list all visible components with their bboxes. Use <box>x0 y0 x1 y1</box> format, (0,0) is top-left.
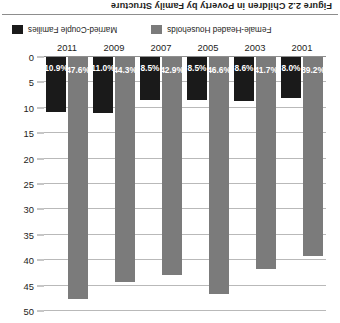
bar-value-label: 46.6% <box>207 65 231 75</box>
bar-value-label: 42.9% <box>160 65 184 75</box>
y-axis-label: 15 <box>24 128 34 139</box>
bar-groups: 39.2%8.0%41.7%8.6%46.6%8.5%42.9%8.5%44.3… <box>44 57 326 311</box>
bar-value-label: 41.7% <box>254 65 278 75</box>
bar: 44.3% <box>115 57 135 282</box>
y-axis-tick <box>37 311 44 312</box>
y-axis-tick <box>37 57 44 58</box>
y-axis: 05101520253035404550 <box>4 57 44 311</box>
y-axis-tick <box>37 260 44 261</box>
figure-container: Figure 2.2 Children in Poverty by Family… <box>0 0 340 323</box>
y-axis-label: 40 <box>24 255 34 266</box>
y-axis-tick <box>37 82 44 83</box>
x-axis-label: 2011 <box>57 42 77 53</box>
y-axis-tick <box>37 209 44 210</box>
y-axis-tick <box>37 158 44 159</box>
y-axis-label: 45 <box>24 280 34 291</box>
figure-title: Figure 2.2 Children in Poverty by Family… <box>8 1 332 11</box>
legend-item: Female-Headed Households <box>151 26 271 35</box>
x-axis-label: 2001 <box>292 42 313 53</box>
x-axis-label: 2007 <box>151 42 172 53</box>
bar: 41.7% <box>256 57 276 269</box>
bar-group: 42.9%8.5% <box>138 57 185 311</box>
dark-swatch-icon <box>12 26 23 35</box>
y-axis-tick <box>37 285 44 286</box>
x-axis-label: 2005 <box>198 42 219 53</box>
legend-label: Female-Headed Households <box>167 26 271 35</box>
bar-value-label: 47.6% <box>66 65 90 75</box>
plot-area: 39.2%8.0%41.7%8.6%46.6%8.5%42.9%8.5%44.3… <box>44 57 326 311</box>
bar: 10.9% <box>46 57 66 112</box>
bar-group: 39.2%8.0% <box>279 57 326 311</box>
bar-group: 41.7%8.6% <box>232 57 279 311</box>
bar: 8.5% <box>187 57 207 100</box>
bar: 8.6% <box>234 57 254 101</box>
bar-value-label: 44.3% <box>113 65 137 75</box>
bar-group: 46.6%8.5% <box>185 57 232 311</box>
y-axis-label: 35 <box>24 229 34 240</box>
bar-value-label: 39.2% <box>301 65 325 75</box>
y-axis-tick <box>37 234 44 235</box>
bar-value-label: 8.5% <box>140 63 159 73</box>
legend-label: Married-Couple Families <box>28 26 117 35</box>
x-axis: 200120032005200720092011 <box>44 39 326 55</box>
y-axis-label: 50 <box>24 306 34 317</box>
bar-group: 44.3%11.0% <box>91 57 138 311</box>
bar: 46.6% <box>209 57 229 294</box>
x-axis-label: 2003 <box>245 42 266 53</box>
rotated-page-wrapper: Figure 2.2 Children in Poverty by Family… <box>0 0 340 323</box>
y-axis-tick <box>37 107 44 108</box>
y-axis-label: 30 <box>24 204 34 215</box>
bar-value-label: 8.0% <box>281 63 300 73</box>
bar: 8.0% <box>281 57 301 98</box>
bar-value-label: 8.6% <box>234 63 253 73</box>
title-divider <box>2 14 338 15</box>
y-axis-label: 5 <box>29 77 34 88</box>
bar: 11.0% <box>93 57 113 113</box>
bar-value-label: 8.5% <box>187 63 206 73</box>
bar: 8.5% <box>140 57 160 100</box>
bar: 42.9% <box>162 57 182 275</box>
bar: 39.2% <box>303 57 323 256</box>
chart-legend: Married-Couple FamiliesFemale-Headed Hou… <box>12 23 328 37</box>
x-axis-label: 2009 <box>104 42 125 53</box>
y-axis-label: 10 <box>24 102 34 113</box>
y-axis-label: 0 <box>29 52 34 63</box>
bar-group: 47.6%10.9% <box>44 57 91 311</box>
y-axis-label: 20 <box>24 153 34 164</box>
y-axis-tick <box>37 133 44 134</box>
y-axis-tick <box>37 184 44 185</box>
gray-swatch-icon <box>151 26 162 35</box>
y-axis-label: 25 <box>24 179 34 190</box>
bar-value-label: 11.0% <box>91 63 114 73</box>
bar-value-label: 10.9% <box>44 63 68 73</box>
bar: 47.6% <box>68 57 88 299</box>
legend-item: Married-Couple Families <box>12 26 117 35</box>
